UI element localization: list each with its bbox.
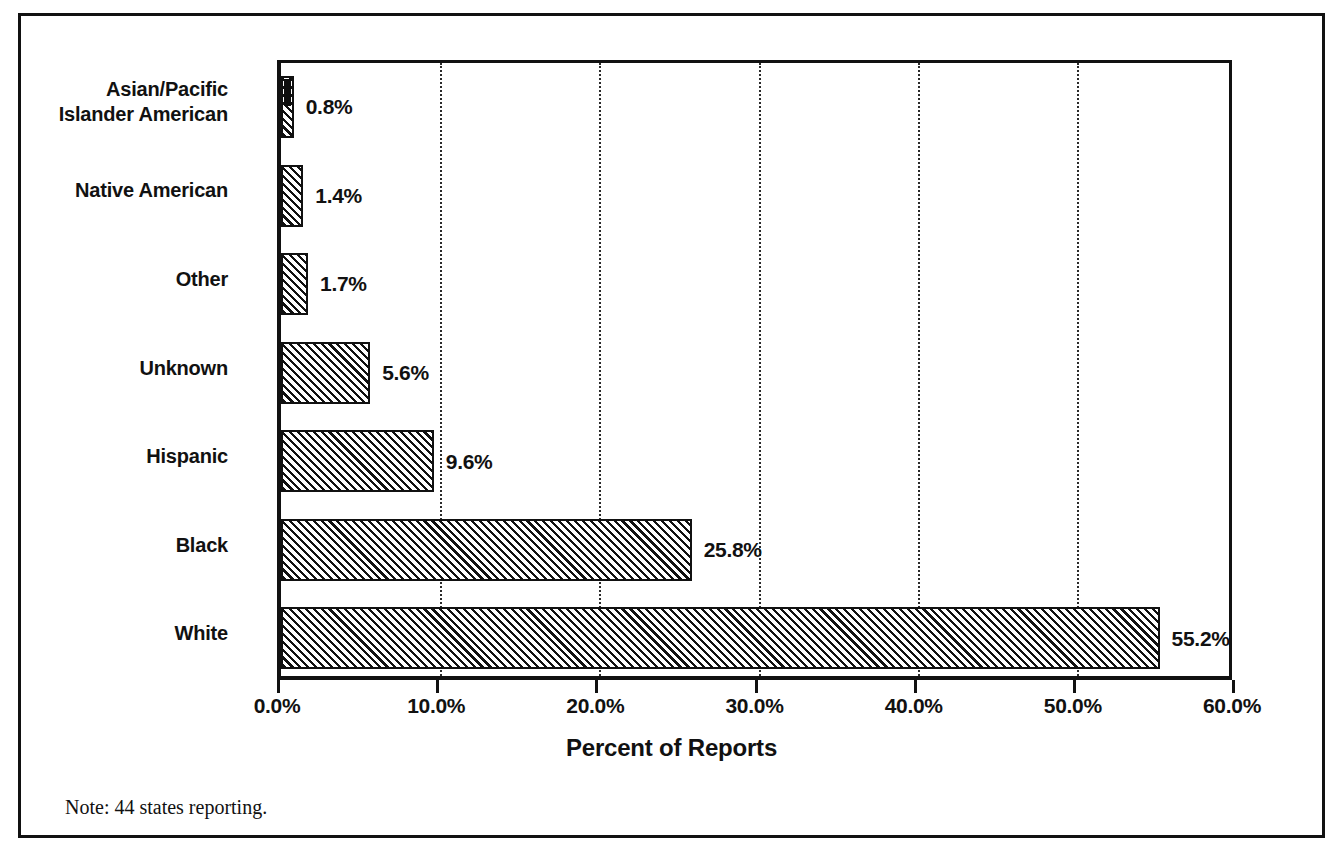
category-label-unknown: Unknown	[0, 356, 228, 381]
bar-value-label: 1.7%	[320, 272, 367, 296]
bar-value-label: 5.6%	[382, 361, 429, 385]
bar-band: 1.7%	[281, 240, 1229, 329]
figure-footnote: Note: 44 states reporting.	[65, 796, 267, 819]
bar-ink-artifact	[284, 79, 291, 106]
bar-band: 5.6%	[281, 329, 1229, 418]
tick-mark-30	[755, 680, 758, 693]
tick-mark-10	[436, 680, 439, 693]
category-label-asian-pacific-islander-american: Asian/PacificIslander American	[0, 77, 228, 127]
category-label-line: Unknown	[0, 356, 228, 381]
bar-band: 9.6%	[281, 417, 1229, 506]
tick-label-50: 50.0%	[1013, 694, 1133, 718]
category-label-hispanic: Hispanic	[0, 444, 228, 469]
tick-mark-0	[277, 680, 280, 693]
plot-area: 0.8%1.4%1.7%5.6%9.6%25.8%55.2%	[277, 60, 1232, 680]
category-label-line: Asian/Pacific	[0, 77, 228, 102]
bar-band: 0.8%	[281, 63, 1229, 152]
category-label-line: Native American	[0, 178, 228, 203]
bar-native-american	[281, 165, 303, 227]
category-label-other: Other	[0, 267, 228, 292]
bar-value-label: 1.4%	[315, 184, 362, 208]
bar-other	[281, 253, 308, 315]
bar-band: 1.4%	[281, 152, 1229, 241]
tick-label-40: 40.0%	[854, 694, 974, 718]
bar-unknown	[281, 342, 370, 404]
tick-label-30: 30.0%	[695, 694, 815, 718]
category-label-black: Black	[0, 533, 228, 558]
bar-value-label: 0.8%	[306, 95, 353, 119]
bar-band: 55.2%	[281, 594, 1229, 683]
category-label-line: Hispanic	[0, 444, 228, 469]
category-label-native-american: Native American	[0, 178, 228, 203]
tick-mark-20	[595, 680, 598, 693]
tick-label-0: 0.0%	[217, 694, 337, 718]
bar-black	[281, 519, 692, 581]
x-axis-title: Percent of Reports	[21, 734, 1322, 762]
category-label-line: White	[0, 621, 228, 646]
figure-frame: 0.8%1.4%1.7%5.6%9.6%25.8%55.2% Asian/Pac…	[18, 13, 1325, 838]
bar-value-label: 55.2%	[1172, 627, 1230, 651]
category-label-white: White	[0, 621, 228, 646]
bar-asian-pacific-islander-american	[281, 76, 294, 138]
tick-label-20: 20.0%	[535, 694, 655, 718]
bar-band: 25.8%	[281, 506, 1229, 595]
tick-label-10: 10.0%	[376, 694, 496, 718]
tick-mark-40	[914, 680, 917, 693]
bar-value-label: 25.8%	[704, 538, 762, 562]
bar-value-label: 9.6%	[446, 450, 493, 474]
tick-mark-50	[1073, 680, 1076, 693]
tick-mark-60	[1232, 680, 1235, 693]
bar-hispanic	[281, 430, 434, 492]
category-label-line: Other	[0, 267, 228, 292]
tick-label-60: 60.0%	[1172, 694, 1292, 718]
category-label-line: Islander American	[0, 102, 228, 127]
category-label-line: Black	[0, 533, 228, 558]
bar-white	[281, 607, 1160, 669]
